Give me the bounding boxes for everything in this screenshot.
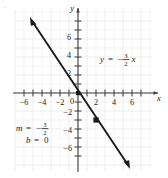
data-point-2-neg3[interactable]	[93, 117, 98, 122]
y-tick-label-6: 6	[67, 33, 71, 42]
data-point-origin[interactable]	[76, 91, 80, 95]
corner-mark: ·	[4, 4, 6, 12]
intercept-value: 0	[44, 135, 49, 145]
intercept-lhs: b	[26, 135, 31, 145]
equation-variable: x	[131, 54, 136, 64]
equation-lhs: y	[99, 54, 104, 64]
equation-equals: =	[108, 54, 113, 64]
x-tick-label-minus4: −4	[38, 98, 47, 107]
intercept-equals: =	[34, 135, 39, 145]
y-tick-label-minus6: −6	[63, 144, 72, 153]
x-axis-label: x	[156, 93, 161, 103]
equation-denominator: 2	[124, 60, 127, 67]
figure-background	[0, 0, 168, 178]
y-tick-label-minus4: −4	[63, 126, 72, 135]
coordinate-plane-svg: −6 −4 −2 2 4 6 6 4 2 −2 −4 −6 0 y x	[0, 0, 168, 178]
y-tick-label-4: 4	[67, 51, 71, 60]
origin-label: 0	[70, 97, 74, 106]
x-tick-label-minus6: −6	[20, 98, 29, 107]
slope-sign: −	[36, 123, 41, 133]
y-tick-label-minus2: −2	[63, 108, 72, 117]
x-tick-label-6: 6	[130, 98, 134, 107]
x-tick-label-minus2: −2	[56, 98, 65, 107]
intercept-annotation: b = 0	[26, 135, 49, 145]
slope-equals: =	[26, 123, 31, 133]
y-axis-label: y	[69, 3, 74, 13]
x-tick-label-4: 4	[112, 98, 116, 107]
slope-lhs: m	[16, 123, 23, 133]
equation-sign: −	[118, 54, 123, 64]
x-tick-label-2: 2	[94, 98, 98, 107]
graph-figure: −6 −4 −2 2 4 6 6 4 2 −2 −4 −6 0 y x	[0, 0, 168, 178]
